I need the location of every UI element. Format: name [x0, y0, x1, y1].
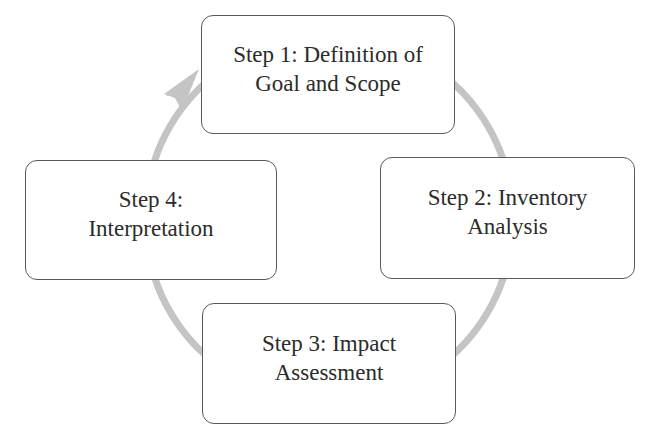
step-2-line1: Step 2: Inventory	[428, 183, 588, 212]
step-4-line1: Step 4:	[119, 185, 184, 214]
step-1-line2: Goal and Scope	[255, 69, 401, 98]
step-3-line2: Assessment	[275, 358, 384, 387]
step-4-box: Step 4: Interpretation	[25, 160, 277, 280]
step-3-box: Step 3: Impact Assessment	[202, 303, 456, 424]
step-1-line1: Step 1: Definition of	[233, 40, 423, 69]
step-2-box: Step 2: Inventory Analysis	[380, 157, 635, 279]
step-1-box: Step 1: Definition of Goal and Scope	[201, 15, 455, 134]
step-4-line2: Interpretation	[88, 214, 213, 243]
step-3-line1: Step 3: Impact	[262, 329, 396, 358]
step-2-line2: Analysis	[467, 212, 548, 241]
